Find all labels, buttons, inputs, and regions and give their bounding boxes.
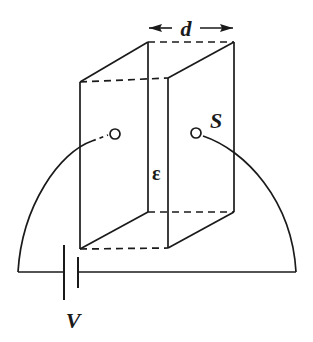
left-hidden-lead-dashed bbox=[92, 135, 108, 141]
battery-symbol bbox=[64, 245, 78, 300]
separation-label: d bbox=[181, 16, 193, 41]
top-front-dashed-edge bbox=[80, 78, 168, 82]
right-plate-top-edge bbox=[168, 42, 234, 78]
source-point-label: S bbox=[210, 108, 222, 133]
left-plate-bottom-edge bbox=[80, 212, 148, 249]
right-plate-bottom-edge bbox=[168, 212, 234, 248]
right-wire-arc bbox=[203, 136, 296, 272]
left-wire-arc bbox=[18, 141, 92, 272]
left-plate-top-edge bbox=[80, 42, 148, 82]
electric-field-label: ε bbox=[152, 162, 161, 184]
right-terminal-circle bbox=[191, 128, 201, 138]
battery-voltage-label: V bbox=[66, 308, 83, 333]
bottom-front-dashed-edge bbox=[80, 248, 168, 249]
left-capacitor-plate bbox=[80, 42, 148, 249]
capacitor-diagram-canvas: d S ε V bbox=[0, 0, 313, 342]
left-terminal-circle bbox=[110, 129, 120, 139]
capacitor-diagram-figure: d S ε V bbox=[0, 0, 313, 342]
